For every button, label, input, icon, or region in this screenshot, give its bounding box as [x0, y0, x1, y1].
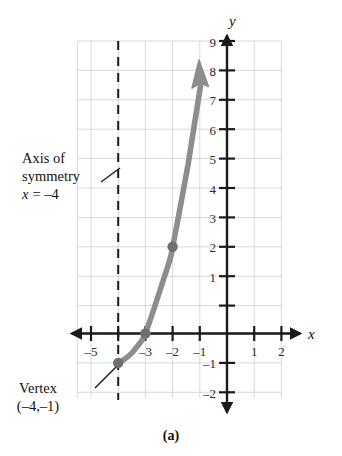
y-tick-label-6: 6 — [210, 123, 217, 138]
vertex-label-coordinates: (–4,–1) — [17, 398, 59, 415]
graph-canvas: –5 –3 –2 –1 1 2 9 8 7 6 5 4 3 2 1 –1 –2 … — [0, 0, 342, 456]
y-tick-label-9: 9 — [210, 35, 217, 50]
y-tick-label-neg1: –1 — [202, 356, 216, 371]
y-tick-label-4: 4 — [210, 182, 217, 197]
y-tick-label-1: 1 — [210, 270, 217, 285]
axis-of-symmetry-equation-value: = –4 — [32, 186, 59, 202]
axis-of-symmetry-equation: x = –4 — [21, 185, 59, 202]
figure-caption: (a) — [163, 428, 180, 444]
vertex-label-line1: Vertex — [19, 380, 58, 396]
x-tick-label-neg2: –2 — [165, 344, 179, 359]
point-x-intercept — [140, 328, 150, 338]
x-axis-label: x — [307, 326, 315, 342]
x-tick-label-neg3: –3 — [138, 344, 152, 359]
axis-of-symmetry-equation-variable: x — [21, 186, 29, 202]
x-tick-label-1: 1 — [251, 344, 258, 359]
x-tick-label-2: 2 — [278, 344, 285, 359]
y-tick-label-8: 8 — [210, 64, 217, 79]
figure-container: –5 –3 –2 –1 1 2 9 8 7 6 5 4 3 2 1 –1 –2 … — [0, 0, 342, 456]
y-tick-label-5: 5 — [210, 152, 217, 167]
x-tick-label-neg5: –5 — [84, 344, 98, 359]
axis-of-symmetry-label-line2: symmetry — [22, 168, 81, 184]
y-tick-label-neg2: –2 — [202, 386, 216, 401]
point-plotted — [167, 242, 177, 252]
y-axis-label: y — [227, 13, 236, 29]
axis-of-symmetry-label-line1: Axis of — [22, 150, 65, 166]
y-tick-label-3: 3 — [210, 211, 217, 226]
point-vertex — [113, 358, 123, 368]
y-tick-label-2: 2 — [210, 240, 217, 255]
y-tick-label-7: 7 — [210, 93, 217, 108]
